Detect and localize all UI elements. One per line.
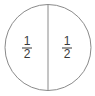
left-denominator: 2 <box>24 47 31 61</box>
left-numerator: 1 <box>24 34 31 48</box>
right-denominator: 2 <box>64 47 71 61</box>
right-numerator: 1 <box>64 34 71 48</box>
fraction-circle-diagram: 1 2 1 2 <box>0 0 95 96</box>
